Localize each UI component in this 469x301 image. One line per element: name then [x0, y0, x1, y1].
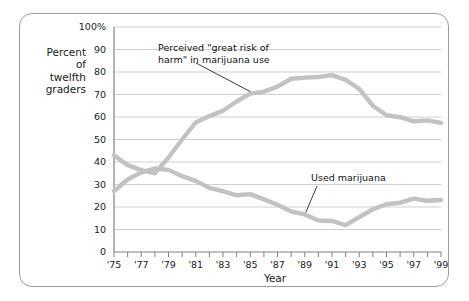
leader-line-1 [306, 186, 317, 212]
risk-annotation-label: Perceived "great risk of harm" in mariju… [158, 42, 270, 65]
series-line-0 [114, 75, 441, 173]
x-tick-marks-group [114, 252, 441, 257]
use-annotation-label: Used marijuana [311, 172, 386, 184]
leader-line-0 [196, 63, 250, 92]
data-series-group [114, 75, 441, 225]
chart-figure: Percent of twelfth graders Year 01020304… [0, 0, 469, 301]
series-line-1 [114, 169, 441, 226]
